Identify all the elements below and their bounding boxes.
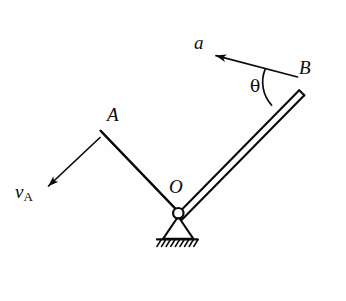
acceleration-vector-arrow bbox=[216, 56, 298, 77]
label-acceleration: a bbox=[194, 33, 204, 52]
figure-canvas bbox=[0, 0, 346, 301]
pin-support bbox=[157, 217, 198, 247]
label-angle-theta: θ bbox=[250, 78, 260, 95]
ground-hatching bbox=[157, 240, 198, 247]
bar-segment-ob bbox=[176, 90, 304, 220]
label-velocity-subscript: A bbox=[23, 189, 32, 204]
bar-segment-ao bbox=[101, 131, 181, 214]
velocity-vector-arrow bbox=[49, 138, 101, 187]
label-velocity: vA bbox=[15, 182, 33, 203]
label-point-a: A bbox=[107, 105, 119, 124]
pivot-joint-circle bbox=[173, 208, 183, 218]
angle-arc bbox=[263, 69, 272, 105]
label-point-b: B bbox=[299, 58, 311, 77]
label-pivot-o: O bbox=[169, 177, 183, 196]
mechanics-figure: A B O a θ vA bbox=[0, 0, 346, 301]
